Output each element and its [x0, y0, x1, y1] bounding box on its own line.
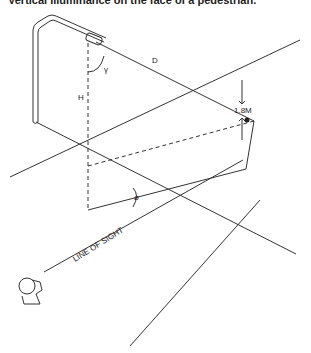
ground-to-face-line: [88, 169, 246, 210]
distance-label: D: [152, 56, 158, 65]
line-of-sight-label: LINE OF SIGHT: [71, 225, 125, 263]
gamma-label: γ: [104, 65, 108, 74]
road-edge-2: [36, 122, 296, 254]
face-height-label: 1.8M: [234, 106, 252, 115]
streetlight-geometry-diagram: γ D H 1.8M ø LINE OF SIGHT: [0, 0, 311, 353]
pedestrian-icon: [19, 278, 42, 304]
distance-line: [96, 42, 254, 121]
road-edge-3: [130, 200, 260, 346]
phi-label: ø: [134, 193, 139, 202]
face-point: [245, 118, 250, 123]
gamma-arc: [88, 56, 104, 72]
horizontal-dashed: [88, 121, 254, 166]
height-label: H: [78, 93, 84, 102]
light-pole: [33, 15, 106, 122]
